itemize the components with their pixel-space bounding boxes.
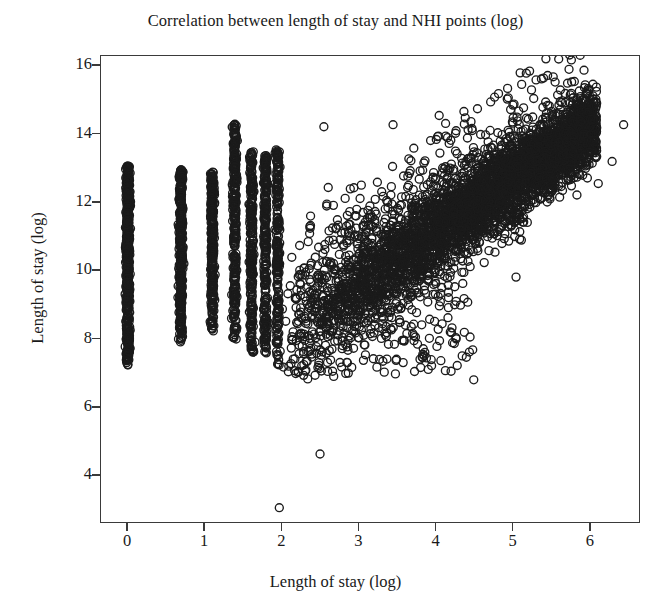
y-tick-mark [92, 474, 100, 476]
x-tick-label: 0 [107, 531, 147, 551]
x-axis-label: Length of stay (log) [0, 572, 671, 592]
x-tick-mark [126, 523, 128, 531]
scatter-plot-figure: Correlation between length of stay and N… [0, 0, 671, 612]
x-tick-mark [512, 523, 514, 531]
x-tick-mark [435, 523, 437, 531]
y-tick-mark [92, 64, 100, 66]
y-tick-mark [92, 133, 100, 135]
x-tick-label: 4 [416, 531, 456, 551]
x-tick-label: 3 [338, 531, 378, 551]
y-tick-mark [92, 201, 100, 203]
y-tick-mark [92, 406, 100, 408]
y-tick-label: 4 [48, 464, 92, 484]
x-tick-label: 6 [570, 531, 610, 551]
y-tick-label: 14 [48, 123, 92, 143]
x-tick-mark [589, 523, 591, 531]
scatter-points-layer [101, 56, 639, 522]
y-tick-label: 6 [48, 396, 92, 416]
y-tick-label: 10 [48, 259, 92, 279]
x-tick-label: 1 [184, 531, 224, 551]
x-tick-label: 5 [493, 531, 533, 551]
y-tick-label: 8 [48, 328, 92, 348]
x-tick-mark [203, 523, 205, 531]
y-tick-label: 12 [48, 191, 92, 211]
y-tick-mark [92, 338, 100, 340]
x-tick-mark [358, 523, 360, 531]
y-tick-label: 16 [48, 54, 92, 74]
plot-area [100, 55, 640, 523]
x-tick-mark [281, 523, 283, 531]
page-title: Correlation between length of stay and N… [0, 11, 671, 31]
x-tick-label: 2 [261, 531, 301, 551]
y-axis-label: Length of stay (log) [28, 148, 48, 408]
y-tick-mark [92, 269, 100, 271]
